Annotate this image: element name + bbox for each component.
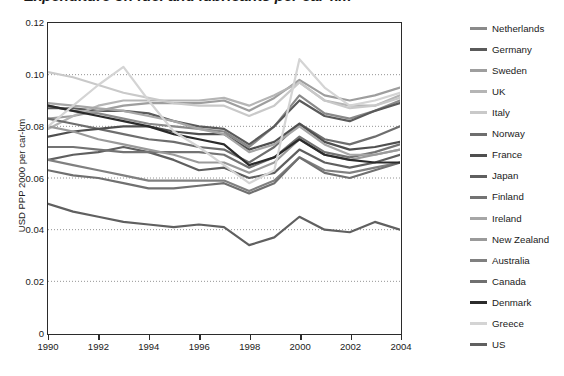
legend-item[interactable]: New Zealand [470, 229, 564, 250]
legend-item-label: Italy [492, 108, 510, 118]
legend-item[interactable]: Denmark [470, 292, 564, 313]
legend-item-label: Germany [492, 45, 532, 55]
x-tick-label: 2004 [371, 341, 431, 352]
legend-item-label: UK [492, 87, 505, 97]
legend-color-swatch [470, 90, 487, 93]
legend-item[interactable]: UK [470, 81, 564, 102]
legend-item-label: Ireland [492, 214, 522, 224]
legend-item[interactable]: Italy [470, 102, 564, 123]
plot-area [47, 22, 402, 335]
legend-item-label: Netherlands [492, 24, 544, 34]
legend-item-label: Norway [492, 129, 525, 139]
series-line [48, 204, 400, 245]
legend-item-label: Australia [492, 256, 530, 266]
legend-item[interactable]: Greece [470, 313, 564, 334]
legend-color-swatch [470, 154, 487, 157]
legend-item[interactable]: Germany [470, 39, 564, 60]
legend-item-label: Greece [492, 319, 524, 329]
legend-color-swatch [470, 133, 487, 136]
legend-item[interactable]: Norway [470, 123, 564, 144]
legend-item-label: France [492, 150, 522, 160]
legend-color-swatch [470, 196, 487, 199]
legend-color-swatch [470, 238, 487, 241]
legend-color-swatch [470, 217, 487, 220]
legend-item-label: US [492, 340, 505, 350]
chart-container: Expenditure on fuel and lubricants per c… [0, 0, 564, 376]
legend-item[interactable]: Canada [470, 271, 564, 292]
legend-color-swatch [470, 343, 487, 346]
legend-item[interactable]: Japan [470, 166, 564, 187]
legend-item[interactable]: France [470, 145, 564, 166]
legend-color-swatch [470, 27, 487, 30]
legend-color-swatch [470, 322, 487, 325]
legend-color-swatch [470, 301, 487, 304]
chart-legend: NetherlandsGermanySwedenUKItalyNorwayFra… [470, 18, 564, 356]
legend-item[interactable]: US [470, 334, 564, 355]
legend-color-swatch [470, 69, 487, 72]
legend-item-label: Canada [492, 277, 526, 287]
legend-color-swatch [470, 48, 487, 51]
legend-item-label: Sweden [492, 66, 527, 76]
legend-item-label: Finland [492, 192, 524, 202]
legend-color-swatch [470, 259, 487, 262]
legend-item-label: New Zealand [492, 235, 549, 245]
legend-item[interactable]: Netherlands [470, 18, 564, 39]
legend-item[interactable]: Australia [470, 250, 564, 271]
legend-item[interactable]: Finland [470, 187, 564, 208]
legend-color-swatch [470, 111, 487, 114]
legend-color-swatch [470, 175, 487, 178]
plot-lines [48, 23, 400, 333]
legend-item-label: Denmark [492, 298, 531, 308]
legend-color-swatch [470, 280, 487, 283]
legend-item[interactable]: Ireland [470, 208, 564, 229]
legend-item-label: Japan [492, 171, 518, 181]
legend-item[interactable]: Sweden [470, 60, 564, 81]
